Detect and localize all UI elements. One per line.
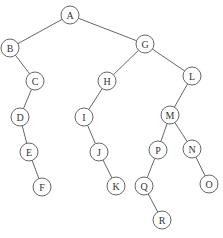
tree-node-m: M bbox=[161, 106, 179, 124]
node-label: H bbox=[103, 76, 110, 87]
edge-a-g bbox=[78, 18, 136, 41]
node-label: F bbox=[39, 182, 45, 193]
tree-node-l: L bbox=[183, 67, 201, 85]
tree-node-k: K bbox=[107, 177, 125, 195]
tree-node-q: Q bbox=[135, 177, 153, 195]
edge-c-d bbox=[23, 89, 31, 108]
tree-node-c: C bbox=[26, 72, 44, 90]
node-label: M bbox=[166, 110, 175, 121]
tree-node-a: A bbox=[61, 6, 79, 24]
node-label: I bbox=[82, 112, 85, 123]
tree-node-f: F bbox=[33, 178, 51, 196]
node-label: C bbox=[32, 76, 39, 87]
node-label: O bbox=[205, 179, 212, 190]
node-label: D bbox=[16, 112, 23, 123]
edge-m-p bbox=[161, 124, 167, 142]
tree-node-r: R bbox=[153, 211, 171, 229]
edge-p-q bbox=[147, 158, 154, 177]
edge-g-h bbox=[113, 50, 138, 74]
edge-b-c bbox=[15, 55, 29, 74]
edge-g-l bbox=[152, 49, 184, 71]
node-label: P bbox=[155, 145, 161, 156]
binary-tree-diagram: ABGCDEFHIJKLMPNQOR bbox=[0, 0, 223, 238]
edge-j-k bbox=[103, 160, 112, 178]
tree-nodes: ABGCDEFHIJKLMPNQOR bbox=[1, 6, 218, 229]
tree-node-p: P bbox=[149, 141, 167, 159]
edge-l-m bbox=[174, 84, 187, 107]
tree-node-n: N bbox=[183, 140, 201, 158]
tree-node-b: B bbox=[1, 39, 19, 57]
edge-m-n bbox=[175, 123, 187, 142]
node-label: J bbox=[97, 147, 101, 158]
edge-h-i bbox=[89, 89, 102, 110]
node-label: Q bbox=[140, 181, 148, 192]
tree-node-o: O bbox=[200, 175, 218, 193]
edge-a-b bbox=[18, 19, 62, 43]
tree-node-e: E bbox=[20, 143, 38, 161]
node-label: N bbox=[188, 144, 195, 155]
edge-i-j bbox=[88, 125, 96, 143]
tree-node-i: I bbox=[75, 108, 93, 126]
node-label: G bbox=[141, 39, 148, 50]
node-label: L bbox=[189, 71, 195, 82]
edge-e-f bbox=[32, 160, 39, 178]
edge-n-o bbox=[196, 157, 205, 176]
tree-node-j: J bbox=[90, 143, 108, 161]
edge-q-r bbox=[148, 194, 158, 212]
tree-node-h: H bbox=[98, 72, 116, 90]
tree-node-g: G bbox=[136, 35, 154, 53]
tree-node-d: D bbox=[11, 108, 29, 126]
edge-d-e bbox=[22, 126, 27, 144]
node-label: A bbox=[66, 10, 74, 21]
node-label: E bbox=[26, 147, 32, 158]
node-label: B bbox=[7, 43, 14, 54]
node-label: R bbox=[159, 215, 166, 226]
node-label: K bbox=[112, 181, 120, 192]
